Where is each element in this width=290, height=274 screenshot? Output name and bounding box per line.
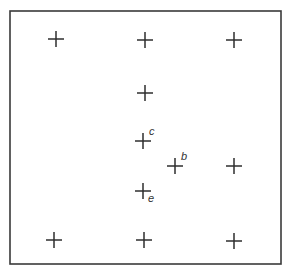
cross-array-diagram: cbe — [0, 0, 290, 274]
cross-marker-top-center — [137, 32, 153, 48]
cross-marker-top-left — [48, 31, 64, 47]
point-labels-group: cbe — [148, 125, 187, 204]
cross-marker-upper-center — [137, 85, 153, 101]
cross-marker-bottom-right — [226, 233, 242, 249]
point-label-e: e — [148, 192, 154, 204]
diagram-canvas: cbe — [0, 0, 290, 274]
cross-marker-mid-right — [226, 158, 242, 174]
square-frame — [10, 11, 281, 264]
cross-markers-group — [46, 31, 242, 249]
cross-marker-top-right — [226, 32, 242, 48]
point-label-b: b — [181, 150, 187, 162]
cross-marker-bottom-left — [46, 232, 62, 248]
cross-marker-bottom-center — [136, 232, 152, 248]
point-label-c: c — [149, 125, 155, 137]
